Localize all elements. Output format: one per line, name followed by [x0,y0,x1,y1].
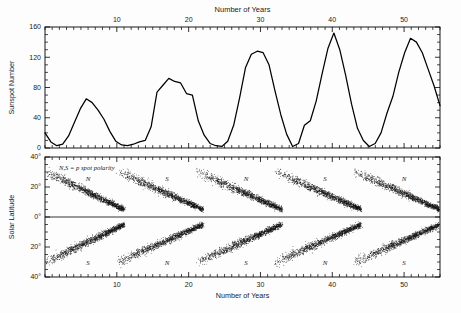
top-panel-frame [45,27,440,148]
sunspot-number-curve [45,33,440,146]
top-y-tick-label: 80 [33,84,41,91]
bottom-y-tick-label: 20° [30,183,41,190]
polarity-note: N,S = p spot polarity [58,164,115,171]
top-x-tick-label: 10 [113,16,121,23]
north-polarity-label: S [165,175,169,183]
bottom-x-axis-label: Number of Years [216,291,270,300]
top-x-tick-label: 50 [400,16,408,23]
bottom-x-tick-label: 40 [328,281,336,288]
north-polarity-label: N [85,175,91,183]
south-polarity-label: N [322,259,328,267]
south-polarity-label: S [86,259,90,267]
top-y-tick-label: 0 [37,144,41,151]
south-polarity-label: S [244,259,248,267]
top-x-tick-label: 40 [328,16,336,23]
bottom-y-tick-label: 20° [30,243,41,250]
figure-canvas: Number of Years 102030405004080120160Sun… [0,0,461,313]
bottom-y-axis-label: Solar Latitude [7,195,16,239]
south-polarity-label: N [164,259,170,267]
bottom-x-tick-label: 50 [400,281,408,288]
top-y-axis-label: Sunspot Number [7,60,16,115]
north-polarity-label: N [243,175,249,183]
south-polarity-label: S [402,259,406,267]
bottom-y-tick-label: 40° [30,153,41,160]
top-y-tick-label: 120 [29,54,41,61]
top-y-tick-label: 40 [33,114,41,121]
bottom-y-tick-label: 0° [34,213,41,220]
bottom-x-tick-label: 30 [257,281,265,288]
bottom-x-tick-label: 20 [185,281,193,288]
top-x-tick-label: 30 [257,16,265,23]
top-panel-title: Number of Years [215,5,271,14]
north-polarity-label: S [323,175,327,183]
north-polarity-label: N [401,175,407,183]
figure-container: Number of Years 102030405004080120160Sun… [0,0,461,313]
bottom-x-tick-label: 10 [113,281,121,288]
top-y-tick-label: 160 [29,23,41,30]
bottom-y-tick-label: 40° [30,273,41,280]
top-x-tick-label: 20 [185,16,193,23]
